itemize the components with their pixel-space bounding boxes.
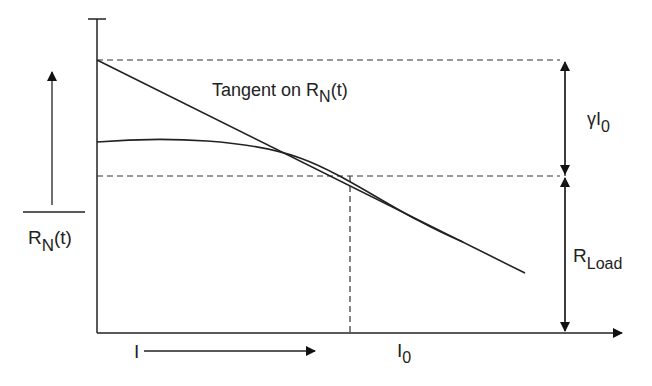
y-axis-label: RN(t) [28,227,72,255]
rn-curve [97,139,463,242]
diagram-canvas: RN(t) Tangent on RN(t) γI0 RLoad I I0 [0,0,652,386]
gamma-i0-label: γI0 [587,109,610,135]
rload-label: RLoad [573,245,622,272]
x-axis-label: I [134,341,139,362]
i0-label: I0 [397,340,411,366]
y-direction-arrow [23,72,85,212]
tangent-label: Tangent on RN(t) [212,80,348,105]
